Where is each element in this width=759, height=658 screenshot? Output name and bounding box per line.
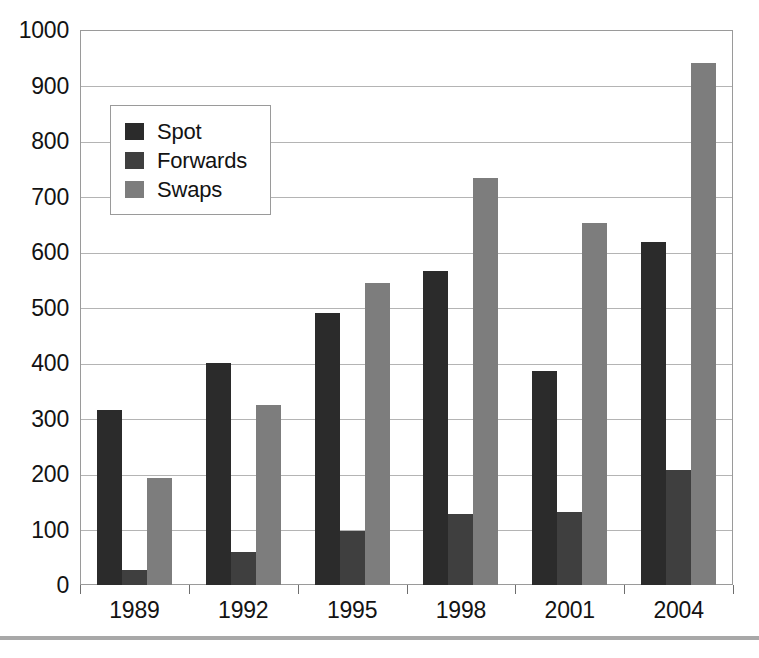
- bar-swaps-1992: [256, 405, 281, 585]
- y-tick-label: 600: [31, 241, 69, 264]
- chart-legend: SpotForwardsSwaps: [110, 105, 271, 215]
- bar-forwards-1995: [340, 531, 365, 585]
- x-tick-label-1992: 1992: [218, 599, 268, 622]
- bar-forwards-1989: [122, 570, 147, 585]
- legend-label: Spot: [157, 121, 201, 143]
- bar-spot-1992: [206, 363, 231, 585]
- y-tick-label: 200: [31, 463, 69, 486]
- bar-swaps-2004: [691, 63, 716, 585]
- legend-item-forwards[interactable]: Forwards: [125, 146, 270, 175]
- bar-swaps-2001: [582, 223, 607, 585]
- bar-forwards-1992: [231, 552, 256, 585]
- bar-group: [298, 30, 407, 585]
- x-tick: [624, 585, 625, 594]
- x-tick: [298, 585, 299, 594]
- y-tick-label: 100: [31, 519, 69, 542]
- bar-chart-figure: 01002003004005006007008009001000 1989199…: [0, 0, 759, 658]
- legend-swatch-forwards-icon: [125, 152, 144, 169]
- bar-swaps-1998: [473, 178, 498, 585]
- x-tick-label-1998: 1998: [436, 599, 486, 622]
- bar-spot-2004: [641, 242, 666, 585]
- x-tick: [189, 585, 190, 594]
- y-tick-label: 400: [31, 352, 69, 375]
- legend-swatch-swaps-icon: [125, 181, 144, 198]
- legend-item-swaps[interactable]: Swaps: [125, 175, 270, 204]
- x-tick: [515, 585, 516, 594]
- y-tick-label: 0: [56, 574, 69, 597]
- bar-forwards-2004: [666, 470, 691, 585]
- bar-group: [624, 30, 733, 585]
- bar-spot-1995: [315, 313, 340, 585]
- bar-swaps-1989: [147, 478, 172, 585]
- y-tick-label: 500: [31, 297, 69, 320]
- x-tick: [407, 585, 408, 594]
- x-tick-label-2001: 2001: [545, 599, 595, 622]
- y-tick-label: 900: [31, 75, 69, 98]
- x-tick-label-1995: 1995: [327, 599, 377, 622]
- bar-spot-1998: [423, 271, 448, 585]
- x-tick: [733, 585, 734, 594]
- y-axis: 01002003004005006007008009001000: [0, 0, 80, 658]
- x-tick-label-2004: 2004: [653, 599, 703, 622]
- y-tick-label: 800: [31, 130, 69, 153]
- legend-item-spot[interactable]: Spot: [125, 117, 270, 146]
- y-tick-label: 1000: [19, 19, 69, 42]
- bar-forwards-2001: [557, 512, 582, 585]
- legend-label: Forwards: [157, 150, 247, 172]
- x-tick-label-1989: 1989: [109, 599, 159, 622]
- bar-group: [515, 30, 624, 585]
- bottom-rule: [0, 636, 759, 640]
- bar-group: [407, 30, 516, 585]
- y-tick-label: 300: [31, 408, 69, 431]
- bar-swaps-1995: [365, 283, 390, 585]
- bar-spot-2001: [532, 371, 557, 585]
- y-tick-label: 700: [31, 186, 69, 209]
- bar-forwards-1998: [448, 514, 473, 585]
- x-tick: [80, 585, 81, 594]
- legend-label: Swaps: [157, 179, 222, 201]
- legend-swatch-spot-icon: [125, 123, 144, 140]
- bar-spot-1989: [97, 410, 122, 585]
